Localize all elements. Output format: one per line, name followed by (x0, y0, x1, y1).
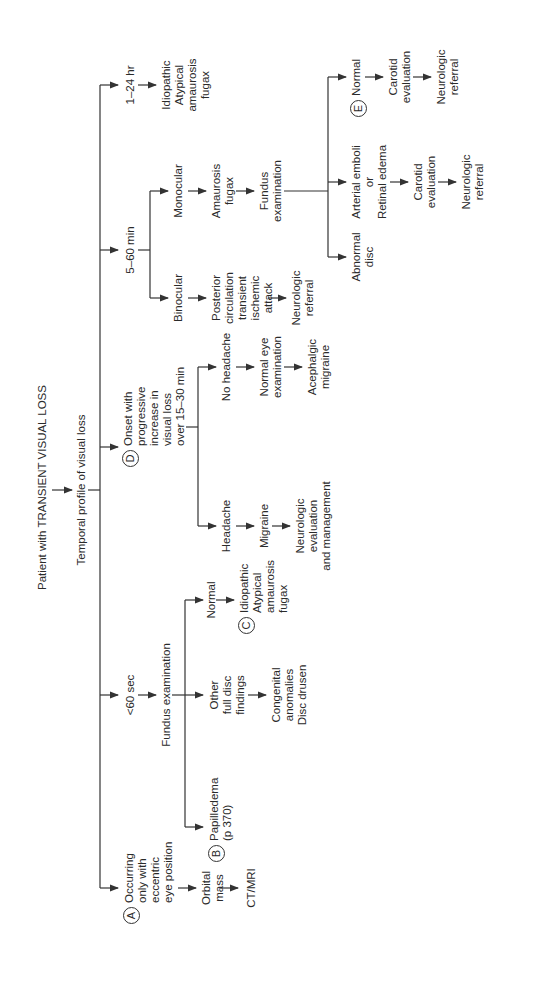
arterial-emboli: Arterial emboli or Retinal edema (350, 132, 389, 232)
neuro-eval-management: Neurologic evaluation and management (294, 471, 333, 581)
normal-carotid-eval: Carotid evaluation (387, 37, 413, 117)
normal-neuro-referral: Neurologic referral (435, 37, 461, 117)
idiopathic-c-label: Idiopathic Atypical amaurosis fugax (238, 560, 290, 613)
abnormal-disc: Abnormal disc (350, 227, 376, 287)
binocular: Binocular (172, 263, 185, 333)
hr1-24-label: 1–24 hr (124, 50, 137, 120)
acephalgic-migraine: Acephalgic migraine (306, 322, 332, 412)
emboli-carotid-eval: Carotid evaluation (412, 142, 438, 222)
congenital-anomalies: Congenital anomalies Disc drusen (270, 650, 309, 740)
other-disc-findings: Other full disc findings (208, 660, 247, 730)
lt60-normal: Normal (205, 570, 218, 630)
binocular-neuro-referral: Neurologic referral (290, 263, 316, 333)
branch-a-label: Occurring only with eccentric eye positi… (123, 842, 175, 903)
min5-60-label: 5–60 min (124, 210, 137, 290)
title: Patient with TRANSIENT VISUAL LOSS (36, 390, 49, 590)
orbital-mass: Orbital mass (200, 858, 226, 918)
papilledema-node: BPapilledema (p 370) (208, 778, 234, 862)
badge-e: E (350, 100, 367, 117)
branch-d-node: DOnset with progressive increase in visu… (122, 367, 187, 467)
emboli-neuro-referral: Neurologic referral (460, 142, 486, 222)
hr1-24-idiopathic: Idiopathic Atypical amaurosis fugax (160, 40, 212, 130)
ct-mri: CT/MRI (245, 858, 258, 918)
normal-e-label: Normal (350, 59, 362, 96)
badge-a: A (123, 907, 140, 924)
migraine: Migraine (258, 486, 271, 566)
idiopathic-c-node: CIdiopathic Atypical amaurosis fugax (238, 560, 290, 634)
posterior-circulation-tia: Posterior circulation transient ischemic… (210, 258, 275, 338)
badge-b: B (208, 845, 225, 862)
branch-d-label: Onset with progressive increase in visua… (122, 367, 187, 446)
headache: Headache (220, 486, 233, 566)
normal-e-node: ENormal (350, 59, 367, 117)
badge-d: D (122, 450, 139, 467)
flowchart-canvas: Patient with TRANSIENT VISUAL LOSS Tempo… (0, 0, 551, 1002)
monocular-fundus-exam: Fundus examination (258, 146, 284, 236)
lt60-label: <60 sec (124, 655, 137, 735)
branch-a-node: AOccurring only with eccentric eye posit… (123, 842, 175, 924)
amaurosis-fugax: Amaurosis fugax (210, 151, 236, 231)
monocular: Monocular (172, 151, 185, 231)
papilledema-label: Papilledema (p 370) (208, 778, 234, 841)
lt60-fundus: Fundus examination (160, 635, 173, 755)
root-step: Temporal profile of visual loss (75, 390, 88, 590)
badge-c: C (238, 617, 255, 634)
